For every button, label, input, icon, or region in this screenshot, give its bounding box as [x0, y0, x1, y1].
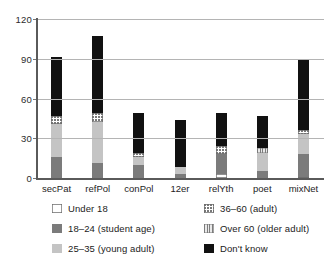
segment-dont-know	[133, 113, 144, 153]
segment-dont-know	[257, 116, 268, 148]
legend-label: Over 60 (older adult)	[220, 223, 309, 234]
x-axis-tick-label-conpol: conPol	[124, 183, 153, 194]
legend-item-over-60[interactable]: Over 60 (older adult)	[204, 221, 309, 235]
segment-18-24	[257, 171, 268, 178]
segment-dont-know	[51, 57, 62, 115]
gridline	[36, 99, 324, 100]
x-axis-tick-label-refpol: refPol	[85, 183, 110, 194]
swatch-dont-know	[204, 244, 214, 253]
segment-25-35	[257, 153, 268, 172]
x-axis-line	[36, 178, 324, 180]
legend-item-25-35[interactable]: 25–35 (young adult)	[52, 241, 154, 255]
y-axis-line	[36, 18, 38, 179]
x-axis-tick-label-poet: poet	[253, 183, 272, 194]
segment-18-24	[92, 163, 103, 178]
segment-25-35	[175, 167, 186, 174]
bar-poet[interactable]	[257, 116, 268, 178]
stacked-bar-chart: 0306090120 secPatrefPolconPol12errelYthp…	[0, 0, 330, 262]
gridline	[36, 19, 324, 20]
x-axis-tick-label-relyth: relYth	[209, 183, 234, 194]
legend-item-36-60[interactable]: 36–60 (adult)	[204, 201, 277, 215]
segment-36-60	[92, 113, 103, 122]
legend-label: 18–24 (student age)	[68, 223, 155, 234]
legend-label: Don't know	[220, 243, 268, 254]
segment-18-24	[133, 165, 144, 178]
segment-dont-know	[298, 59, 309, 131]
segment-18-24	[298, 154, 309, 177]
legend-label: 36–60 (adult)	[220, 203, 277, 214]
legend-item-18-24[interactable]: 18–24 (student age)	[52, 221, 155, 235]
x-axis-tick-label-12er: 12er	[170, 183, 189, 194]
bar-mixnet[interactable]	[298, 59, 309, 178]
legend-label: Under 18	[68, 203, 108, 214]
bars-layer	[0, 0, 330, 190]
segment-25-35	[133, 157, 144, 165]
bar-12er[interactable]	[175, 120, 186, 178]
gridline	[36, 59, 324, 60]
x-axis-tick-label-mixnet: mixNet	[289, 183, 319, 194]
gridline	[36, 138, 324, 139]
x-axis-tick-label-secpat: secPat	[42, 183, 71, 194]
chart-legend: Under 1836–60 (adult)18–24 (student age)…	[52, 201, 324, 259]
swatch-under-18	[52, 204, 62, 213]
legend-item-under-18[interactable]: Under 18	[52, 201, 108, 215]
segment-dont-know	[92, 36, 103, 113]
swatch-18-24	[52, 224, 62, 233]
segment-25-35	[51, 124, 62, 157]
swatch-over-60	[204, 224, 214, 233]
swatch-36-60	[204, 204, 214, 213]
legend-label: 25–35 (young adult)	[68, 243, 154, 254]
segment-36-60	[51, 116, 62, 124]
segment-18-24	[51, 157, 62, 178]
segment-25-35	[92, 122, 103, 163]
swatch-25-35	[52, 244, 62, 253]
segment-dont-know	[175, 120, 186, 168]
segment-36-60	[216, 146, 227, 154]
bar-refpol[interactable]	[92, 36, 103, 178]
bar-relyth[interactable]	[216, 113, 227, 178]
segment-18-24	[216, 154, 227, 174]
bar-secpat[interactable]	[51, 57, 62, 178]
legend-item-dont-know[interactable]: Don't know	[204, 241, 268, 255]
segment-dont-know	[216, 113, 227, 146]
bar-conpol[interactable]	[133, 113, 144, 178]
plot-area: 0306090120 secPatrefPolconPol12errelYthp…	[0, 0, 330, 190]
